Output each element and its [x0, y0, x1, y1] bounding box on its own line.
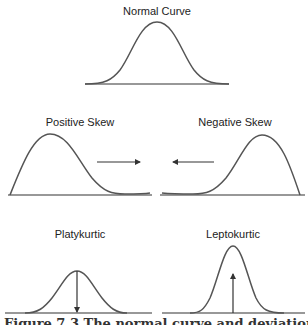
leptokurtic-panel — [162, 246, 305, 313]
negative-skew-panel — [160, 135, 305, 195]
normal-curve-title: Normal Curve — [123, 5, 191, 17]
leptokurtic-title: Leptokurtic — [206, 228, 260, 240]
normal-curve — [85, 22, 229, 84]
platykurtic-curve — [25, 271, 127, 313]
positive-skew-curve — [10, 134, 150, 195]
platykurtic-panel — [5, 271, 152, 313]
figure-caption: Figure 7.3 The normal curve and deviatio… — [4, 316, 308, 325]
negative-skew-curve — [162, 135, 300, 195]
platykurtic-title: Platykurtic — [55, 228, 106, 240]
positive-skew-title: Positive Skew — [46, 116, 114, 128]
positive-skew-panel — [8, 134, 152, 195]
distribution-shapes-figure: Normal Curve Positive Skew Negative Skew… — [0, 0, 308, 325]
leptokurtic-curve — [190, 246, 284, 313]
figure-graphics — [0, 0, 308, 325]
negative-skew-title: Negative Skew — [198, 116, 271, 128]
normal-curve-panel — [85, 22, 229, 84]
